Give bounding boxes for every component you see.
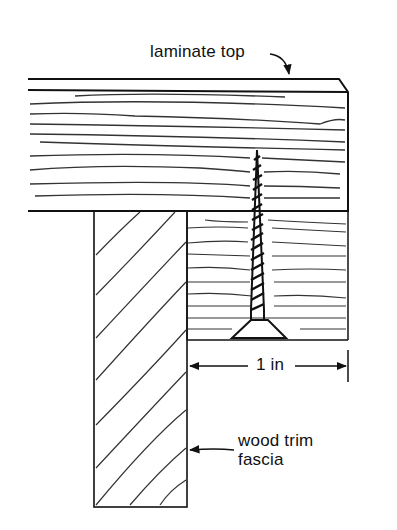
wood-trim-label-line1: wood trim [238,431,314,450]
diagram-canvas [0,0,397,530]
laminate-top-label: laminate top [150,42,245,61]
wood-trim-leader [190,449,234,450]
laminate-top [28,79,348,211]
wood-trim-label-line2: fascia [238,450,314,469]
wood-grain-substrate [188,220,346,329]
dimension-label: 1 in [253,355,287,374]
wood-grain-top [30,94,345,198]
wood-grain-trim [96,212,186,505]
laminate-top-leader [270,54,289,74]
wood-trim-fascia-label: wood trim fascia [238,431,314,469]
